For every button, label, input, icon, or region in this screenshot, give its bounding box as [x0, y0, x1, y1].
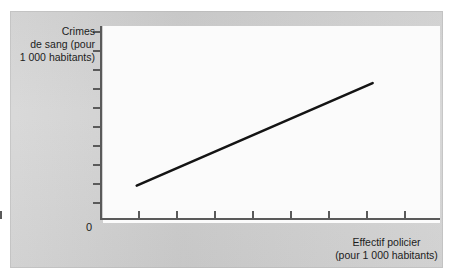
y-axis-line	[100, 26, 102, 220]
x-axis-tick	[252, 211, 254, 219]
y-axis-title-line-1: Crimes	[8, 25, 95, 38]
x-axis-title-line-2: (pour 1 000 habitants)	[330, 249, 443, 262]
x-axis-line	[100, 218, 440, 220]
y-axis-tick	[93, 69, 101, 71]
y-axis-title-line-3: 1 000 habitants)	[8, 51, 95, 64]
y-axis-tick	[93, 202, 101, 204]
x-axis-tick	[404, 211, 406, 219]
y-axis-tick	[93, 126, 101, 128]
x-axis-tick	[328, 211, 330, 219]
plot-area	[103, 26, 440, 223]
figure-root: 0 Crimes de sang (pour 1 000 habitants) …	[0, 0, 453, 278]
y-axis-title: Crimes de sang (pour 1 000 habitants)	[8, 25, 95, 65]
origin-label: 0	[86, 221, 92, 234]
x-axis-tick	[290, 211, 292, 219]
y-axis-tick	[93, 88, 101, 90]
y-axis-tick	[93, 183, 101, 185]
x-axis-tick	[0, 211, 2, 219]
x-axis-tick	[214, 211, 216, 219]
y-axis-tick	[93, 145, 101, 147]
x-axis-tick	[366, 211, 368, 219]
y-axis-tick	[93, 107, 101, 109]
x-axis-title-line-1: Effectif policier	[330, 236, 443, 249]
x-axis-title: Effectif policier (pour 1 000 habitants)	[330, 236, 443, 262]
x-axis-tick	[138, 211, 140, 219]
x-axis-tick	[176, 211, 178, 219]
y-axis-title-line-2: de sang (pour	[8, 38, 95, 51]
y-axis-tick	[93, 164, 101, 166]
